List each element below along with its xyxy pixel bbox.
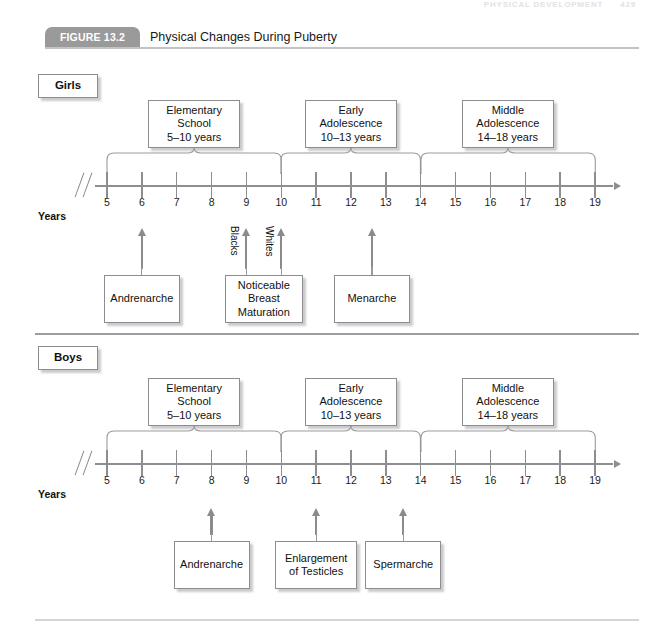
phase-box-girls-middle-adolescence-line: Middle: [476, 104, 539, 118]
axis-tick-girls-17: [525, 172, 526, 198]
phase-box-girls-middle-adolescence: MiddleAdolescence14–18 years: [462, 100, 554, 148]
axis-tick-boys-16: [490, 450, 491, 476]
event-pointer-boys-enlargement-of-testicles-0-shaft: [315, 515, 317, 535]
figure-number-tab: FIGURE 13.2: [45, 27, 140, 47]
phase-stem-girls-middle-adolescence: [507, 148, 508, 149]
event-box-girls-noticeable-breast-maturation-line: Maturation: [238, 306, 290, 320]
axis-tick-girls-14: [420, 172, 421, 198]
axis-tick-label-girls-13: 13: [375, 196, 397, 208]
axis-tick-label-boys-18: 18: [549, 474, 571, 486]
section-tag-boys: Boys: [38, 346, 98, 370]
event-side-label-girls-noticeable-breast-maturation-0: Blacks: [229, 226, 240, 255]
axis-tick-label-boys-6: 6: [131, 474, 153, 486]
event-pointer-girls-noticeable-breast-maturation-1-shaft: [280, 235, 282, 269]
event-box-boys-enlargement-of-testicles-line: of Testicles: [285, 565, 347, 579]
axis-tick-label-girls-8: 8: [201, 196, 223, 208]
axis-tick-label-boys-10: 10: [270, 474, 292, 486]
phase-box-boys-early-adolescence-label: EarlyAdolescence10–13 years: [316, 382, 387, 423]
axis-tick-label-boys-13: 13: [375, 474, 397, 486]
axis-tick-label-boys-5: 5: [96, 474, 118, 486]
axis-tick-label-girls-19: 19: [584, 196, 606, 208]
axis-tick-girls-13: [385, 172, 386, 198]
event-connector-boys-andrenarche-0: [211, 533, 212, 541]
header-divider: [45, 47, 639, 49]
phase-box-girls-middle-adolescence-line: 14–18 years: [476, 131, 539, 145]
event-box-boys-spermarche-line: Spermarche: [373, 558, 433, 572]
axis-tick-boys-11: [315, 450, 316, 476]
event-pointer-girls-noticeable-breast-maturation-0: [242, 228, 251, 269]
axis-tick-boys-6: [141, 450, 142, 476]
axis-tick-girls-9: [246, 172, 247, 198]
footer-divider: [35, 619, 639, 621]
axis-tick-label-girls-11: 11: [305, 196, 327, 208]
phase-stem-boys-middle-adolescence: [507, 426, 508, 427]
event-box-boys-andrenarche-line: Andrenarche: [180, 558, 243, 572]
axis-tick-label-girls-7: 7: [166, 196, 188, 208]
axis-tick-label-girls-16: 16: [479, 196, 501, 208]
event-box-girls-menarche-line: Menarche: [347, 292, 396, 306]
axis-tick-boys-15: [455, 450, 456, 476]
section-divider: [35, 333, 639, 335]
axis-arrow-icon-boys: [614, 460, 621, 468]
axis-tick-label-boys-7: 7: [166, 474, 188, 486]
axis-tick-label-girls-9: 9: [235, 196, 257, 208]
event-pointer-boys-enlargement-of-testicles-0: [312, 508, 321, 535]
phase-box-girls-early-adolescence: EarlyAdolescence10–13 years: [305, 100, 397, 148]
axis-tick-label-girls-15: 15: [445, 196, 467, 208]
axis-tick-label-boys-19: 19: [584, 474, 606, 486]
axis-tick-boys-17: [525, 450, 526, 476]
phase-box-girls-elementary-school-line: 5–10 years: [166, 131, 222, 145]
axis-tick-boys-7: [176, 450, 177, 476]
event-box-girls-menarche: Menarche: [334, 275, 410, 323]
event-pointer-girls-andrenarche-0-shaft: [141, 235, 143, 269]
phase-box-girls-early-adolescence-label: EarlyAdolescence10–13 years: [316, 104, 387, 145]
axis-tick-girls-11: [315, 172, 316, 198]
event-connector-boys-enlargement-of-testicles-0: [316, 533, 317, 541]
event-pointer-boys-spermarche-0-shaft: [402, 515, 404, 535]
phase-box-boys-early-adolescence: EarlyAdolescence10–13 years: [305, 378, 397, 426]
event-box-boys-spermarche-label: Spermarche: [369, 558, 437, 572]
axis-tick-girls-5: [106, 172, 107, 198]
phase-box-boys-middle-adolescence-line: Middle: [476, 382, 539, 396]
phase-stem-boys-elementary-school: [194, 426, 195, 427]
phase-box-girls-elementary-school-line: Elementary: [166, 104, 222, 118]
event-connector-boys-spermarche-0: [403, 533, 404, 541]
event-box-girls-andrenarche-line: Andrenarche: [110, 292, 173, 306]
phase-brace-boys-elementary-school: [107, 430, 281, 452]
phase-brace-girls-early-adolescence: [281, 152, 420, 174]
axis-tick-boys-18: [559, 450, 560, 476]
event-box-girls-noticeable-breast-maturation-label: NoticeableBreastMaturation: [234, 279, 294, 320]
phase-box-boys-elementary-school: ElementarySchool5–10 years: [148, 378, 240, 426]
phase-box-girls-early-adolescence-line: 10–13 years: [320, 131, 383, 145]
phase-box-girls-early-adolescence-line: Adolescence: [320, 117, 383, 131]
phase-box-boys-early-adolescence-line: 10–13 years: [320, 409, 383, 423]
axis-tick-girls-15: [455, 172, 456, 198]
event-box-boys-andrenarche: Andrenarche: [174, 541, 250, 589]
years-label-boys: Years: [38, 488, 66, 500]
event-side-label-girls-noticeable-breast-maturation-1: Whites: [264, 226, 275, 257]
timeline-axis-girls: [95, 185, 613, 187]
axis-tick-label-boys-15: 15: [445, 474, 467, 486]
event-box-girls-menarche-label: Menarche: [343, 292, 400, 306]
event-box-girls-noticeable-breast-maturation-line: Breast: [238, 292, 290, 306]
event-connector-girls-noticeable-breast-maturation-0: [246, 267, 247, 275]
axis-tick-label-girls-10: 10: [270, 196, 292, 208]
event-pointer-boys-spermarche-0: [399, 508, 408, 535]
axis-break-icon-boys-b: [83, 451, 93, 476]
running-head: PHYSICAL DEVELOPMENT 429: [484, 0, 636, 9]
phase-box-boys-early-adolescence-line: Early: [320, 382, 383, 396]
phase-brace-boys-middle-adolescence: [421, 430, 595, 452]
axis-tick-label-boys-17: 17: [514, 474, 536, 486]
event-pointer-boys-andrenarche-0: [207, 508, 216, 535]
figure-title: Physical Changes During Puberty: [150, 30, 337, 44]
phase-box-girls-early-adolescence-line: Early: [320, 104, 383, 118]
event-box-boys-enlargement-of-testicles-line: Enlargement: [285, 552, 347, 566]
axis-tick-label-boys-8: 8: [201, 474, 223, 486]
axis-tick-girls-16: [490, 172, 491, 198]
phase-stem-girls-early-adolescence: [350, 148, 351, 149]
section-tag-girls-line: Girls: [55, 79, 81, 93]
axis-tick-label-boys-9: 9: [235, 474, 257, 486]
axis-arrow-icon-girls: [614, 182, 621, 190]
event-box-girls-andrenarche: Andrenarche: [104, 275, 180, 323]
event-connector-girls-menarche-0: [371, 267, 372, 275]
